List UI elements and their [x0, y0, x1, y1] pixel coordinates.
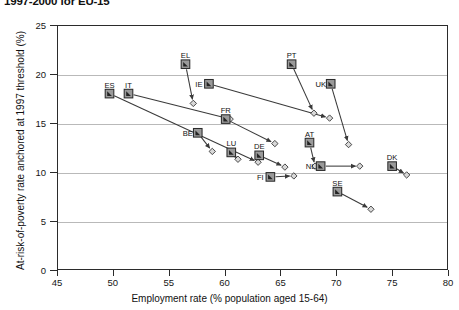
x-tick-75: [392, 270, 393, 276]
y-tick-label-25: 25: [35, 20, 46, 31]
x-tick-label-45: 45: [52, 277, 63, 288]
point-label-IT: IT: [125, 80, 132, 89]
point-label-BE: BE: [183, 128, 193, 137]
y-tick-10: [50, 172, 57, 173]
x-axis-title: Employment rate (% population aged 15-64…: [0, 293, 459, 304]
chart-title: 1997-2000 for EU-15: [4, 0, 110, 7]
point-label-FR: FR: [221, 106, 231, 115]
y-tick-label-0: 0: [41, 265, 46, 276]
y-tick-label-10: 10: [35, 167, 46, 178]
point-label-DK: DK: [387, 153, 398, 162]
x-tick-label-70: 70: [331, 277, 342, 288]
point-label-UK: UK: [315, 79, 326, 88]
point-label-ES: ES: [104, 80, 114, 89]
x-tick-label-80: 80: [443, 277, 454, 288]
y-tick-15: [50, 123, 57, 124]
y-tick-5: [50, 221, 57, 222]
y-tick-20: [50, 74, 57, 75]
x-tick-label-50: 50: [108, 277, 119, 288]
y-tick-label-5: 5: [41, 216, 46, 227]
gridline-y-5: [58, 222, 447, 223]
x-tick-60: [225, 270, 226, 276]
point-label-DE: DE: [254, 142, 265, 151]
y-tick-label-20: 20: [35, 69, 46, 80]
point-label-AT: AT: [305, 129, 314, 138]
point-label-IE: IE: [195, 79, 202, 88]
gridline-y-15: [58, 124, 447, 125]
y-tick-0: [50, 270, 57, 271]
x-tick-label-75: 75: [387, 277, 398, 288]
x-tick-label-60: 60: [219, 277, 230, 288]
point-label-EL: EL: [181, 51, 190, 60]
gridline-y-10: [58, 173, 447, 174]
x-tick-80: [448, 270, 449, 276]
x-tick-55: [169, 270, 170, 276]
x-tick-label-65: 65: [275, 277, 286, 288]
point-label-LU: LU: [226, 139, 236, 148]
point-label-PT: PT: [287, 51, 297, 60]
plot-area: [57, 25, 448, 270]
x-tick-45: [57, 270, 58, 276]
point-label-NL: NL: [306, 162, 316, 171]
x-tick-label-55: 55: [163, 277, 174, 288]
x-tick-50: [113, 270, 114, 276]
y-tick-25: [50, 25, 57, 26]
y-tick-label-15: 15: [35, 118, 46, 129]
x-tick-70: [336, 270, 337, 276]
chart-root: 1997-2000 for EU-15 0510152025 455055606…: [0, 0, 459, 310]
gridline-y-20: [58, 75, 447, 76]
x-tick-65: [280, 270, 281, 276]
point-label-FI: FI: [257, 172, 264, 181]
point-label-SE: SE: [332, 178, 342, 187]
y-axis-title: At-risk-of-poverty rate anchored at 1997…: [15, 26, 26, 276]
